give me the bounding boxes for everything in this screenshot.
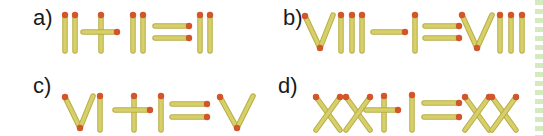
puzzle-c-equation [62,93,253,131]
puzzle-b-equation [302,12,525,51]
puzzle-a-equation [62,12,213,51]
puzzle-d-equation [313,92,519,130]
matchstick-canvas [0,0,543,136]
dashed-border-decoration [535,0,543,136]
